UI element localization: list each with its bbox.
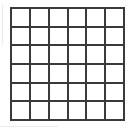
grid-cell	[31, 102, 50, 121]
grid-cell	[69, 28, 88, 47]
grid-cell	[12, 9, 31, 28]
scan-artifact	[0, 126, 58, 127]
grid-cell	[69, 46, 88, 65]
grid-cell	[69, 102, 88, 121]
grid-cell	[31, 46, 50, 65]
grid-cell	[106, 84, 125, 103]
grid-cell	[106, 46, 125, 65]
grid-cell	[87, 84, 106, 103]
grid-cell	[31, 9, 50, 28]
grid-cell	[87, 102, 106, 121]
grid-cell	[106, 102, 125, 121]
grid-cell	[50, 46, 69, 65]
grid-cell	[31, 84, 50, 103]
grid-cell	[87, 9, 106, 28]
grid-cell	[106, 9, 125, 28]
grid-cell	[12, 65, 31, 84]
grid-cell	[50, 102, 69, 121]
grid-diagram	[10, 7, 125, 121]
grid-cell	[12, 84, 31, 103]
grid-cell	[106, 28, 125, 47]
grid-cell	[69, 84, 88, 103]
grid-cell	[50, 84, 69, 103]
grid-cell	[31, 65, 50, 84]
grid-cell	[31, 28, 50, 47]
grid-cell	[12, 28, 31, 47]
grid-cell	[69, 65, 88, 84]
grid-cell	[50, 28, 69, 47]
grid-cell	[50, 65, 69, 84]
grid-cell	[87, 65, 106, 84]
grid-cell	[106, 65, 125, 84]
grid-cell	[50, 9, 69, 28]
grid-cell	[87, 28, 106, 47]
grid-cell	[12, 102, 31, 121]
scan-artifact	[2, 5, 3, 45]
figure-canvas	[0, 0, 134, 129]
grid-cell	[69, 9, 88, 28]
grid-cell	[87, 46, 106, 65]
grid-cell	[12, 46, 31, 65]
